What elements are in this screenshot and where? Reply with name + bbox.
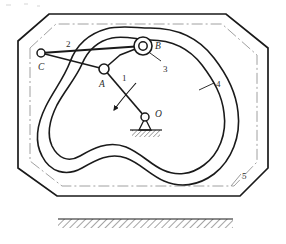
label-5: 5 <box>242 172 247 181</box>
leader-4 <box>199 83 214 90</box>
label-O: O <box>155 110 162 120</box>
label-C: C <box>38 63 44 73</box>
rotation-direction-arrow <box>114 83 136 110</box>
joints-group <box>37 37 152 74</box>
label-A: A <box>99 80 105 90</box>
mechanism-diagram <box>0 0 286 244</box>
label-4: 4 <box>216 80 221 89</box>
scan-speck <box>6 4 11 6</box>
scan-speck <box>24 3 28 5</box>
ground-hatching <box>58 219 233 228</box>
label-3: 3 <box>163 65 168 74</box>
label-1: 1 <box>122 74 127 83</box>
label-B: B <box>155 42 161 52</box>
scan-speck <box>37 5 40 7</box>
joint-a <box>99 64 109 74</box>
joint-b-roller-inner <box>139 42 147 50</box>
joint-c <box>37 49 45 57</box>
leader-3 <box>150 53 161 61</box>
cam-inner-contour <box>49 37 225 174</box>
label-2: 2 <box>66 40 71 49</box>
figure-canvas: 12345ABCO <box>0 0 286 244</box>
